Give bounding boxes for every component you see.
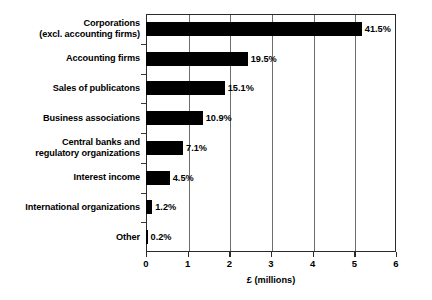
x-axis-tick-label: 4	[301, 258, 325, 269]
category-label: Interest income	[0, 172, 140, 183]
x-axis-tick	[313, 252, 314, 257]
x-axis-tick-label: 3	[259, 258, 283, 269]
y-axis-tick	[141, 44, 146, 45]
gridline-2	[230, 15, 231, 251]
category-label: Corporations (excl. accounting firms)	[0, 18, 140, 40]
x-axis-tick-label: 6	[384, 258, 408, 269]
x-axis-tick	[229, 252, 230, 257]
x-axis-tick-label: 1	[176, 258, 200, 269]
category-label: Sales of publicatons	[0, 83, 140, 94]
category-axis-labels: Corporations (excl. accounting firms)Acc…	[0, 14, 144, 252]
y-axis-tick	[141, 133, 146, 134]
y-axis-tick	[141, 74, 146, 75]
x-axis-tick	[271, 252, 272, 257]
category-label: Other	[0, 232, 140, 243]
x-axis-tick	[354, 252, 355, 257]
category-label: Accounting firms	[0, 53, 140, 64]
gridline-4	[314, 15, 315, 251]
category-label: Business associations	[0, 113, 140, 124]
x-axis-tick-label: 0	[134, 258, 158, 269]
y-axis-tick	[141, 193, 146, 194]
y-axis-tick	[141, 103, 146, 104]
y-axis-tick	[141, 222, 146, 223]
gridline-5	[355, 15, 356, 251]
category-label: Central banks and regulatory organizatio…	[0, 137, 140, 159]
x-axis-tick	[396, 252, 397, 257]
x-axis-tick-label: 2	[217, 258, 241, 269]
x-axis-tick-label: 5	[342, 258, 366, 269]
x-axis-tick	[188, 252, 189, 257]
gridline-3	[272, 15, 273, 251]
bar-chart: Corporations (excl. accounting firms)Acc…	[0, 0, 432, 300]
x-axis-title: £ (millions)	[146, 275, 396, 285]
category-label: International organizations	[0, 202, 140, 213]
x-axis-tick	[146, 252, 147, 257]
gridline-1	[189, 15, 190, 251]
y-axis-tick	[141, 163, 146, 164]
plot-area	[146, 14, 396, 252]
